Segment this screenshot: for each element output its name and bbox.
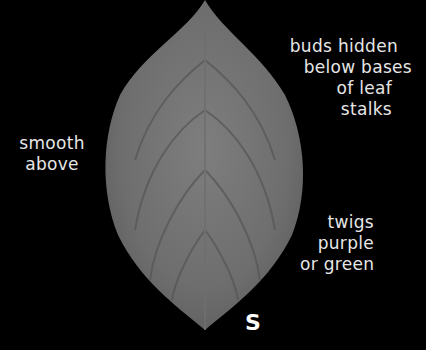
twigs-line-3: or green [300,254,374,275]
surface-line-2: above [10,154,94,175]
buds-line-2: below bases [262,57,412,78]
surface-line-1: smooth [10,133,94,154]
buds-annotation: buds hidden below bases of leaf stalks [262,36,398,120]
surface-annotation: smooth above [10,133,94,175]
marker-label: S [245,310,261,335]
twigs-annotation: twigs purple or green [300,212,374,275]
buds-line-3: of leaf [262,78,392,99]
twigs-line-2: purple [300,233,374,254]
buds-line-1: buds hidden [262,36,398,57]
twigs-line-1: twigs [300,212,374,233]
buds-line-4: stalks [262,99,392,120]
